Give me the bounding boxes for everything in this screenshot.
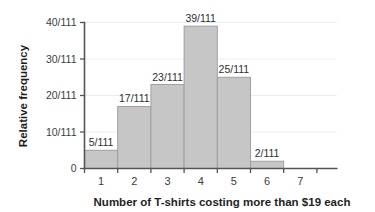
x-axis-title: Number of T-shirts costing more than $19… [94, 196, 351, 208]
x-tick-label-5: 5 [231, 175, 237, 187]
y-tick-label-30: 30/111 [46, 53, 77, 65]
bar-value-label-6: 2/111 [255, 147, 280, 159]
x-tick-label-7: 7 [297, 175, 303, 187]
y-tick-label-40: 40/111 [46, 16, 77, 28]
chart-canvas: 010/11120/11130/11140/111 1234567 5/1111… [0, 0, 375, 212]
bar-value-label-5: 25/111 [219, 63, 250, 75]
x-tick-label-4: 4 [198, 175, 204, 187]
y-axis-title: Relative frequency [17, 44, 29, 147]
x-tick-label-1: 1 [98, 175, 104, 187]
bar-2 [118, 106, 151, 168]
x-tick-label-3: 3 [164, 175, 170, 187]
bar-1 [85, 150, 118, 168]
bar-4 [184, 26, 217, 168]
bar-value-label-2: 17/111 [119, 92, 150, 104]
y-tick-label-10: 10/111 [46, 126, 77, 138]
histogram-chart: 010/11120/11130/11140/111 1234567 5/1111… [0, 0, 375, 212]
bar-3 [151, 85, 184, 169]
bar-value-label-1: 5/111 [89, 136, 114, 148]
y-tick-label-0: 0 [71, 162, 77, 174]
bar-6 [251, 161, 284, 168]
bar-value-label-3: 23/111 [152, 71, 183, 83]
bar-5 [217, 77, 250, 168]
bar-value-label-4: 39/111 [185, 12, 216, 24]
y-tick-label-20: 20/111 [46, 89, 77, 101]
x-tick-label-2: 2 [131, 175, 137, 187]
x-tick-label-6: 6 [264, 175, 270, 187]
